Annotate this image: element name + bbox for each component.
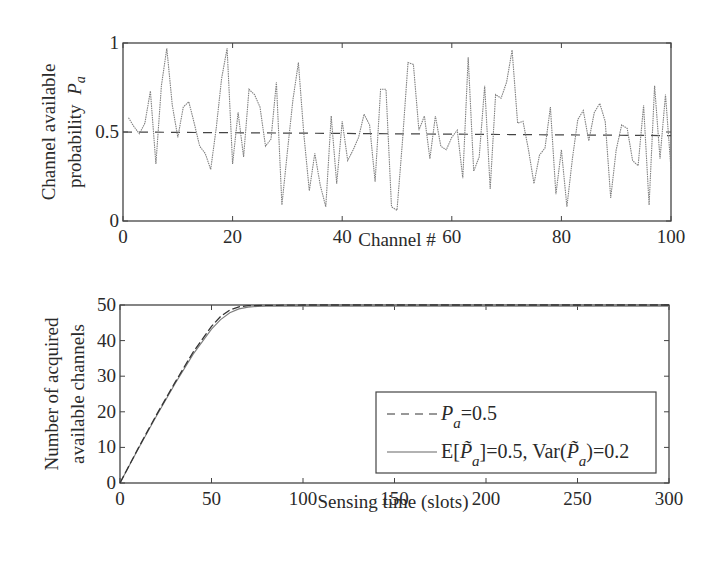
y-tick-label: 10 [97,436,116,457]
bottom-y-axis-label: Number of acquired available channels [41,317,88,470]
legend: Pa=0.5 E[P̃a]=0.5, Var(P̃a)=0.2 [376,392,656,473]
svg-text:Number of acquired: Number of acquired [41,317,62,470]
svg-text:Channel available: Channel available [38,64,59,201]
x-tick-label: 250 [563,488,592,509]
mean-dashed-line [123,132,671,136]
y-tick-label: 0 [107,472,117,493]
channel-probability-line [129,48,672,210]
y-tick-label: 0 [110,210,120,231]
svg-text:probability Pa: probability Pa [64,76,88,188]
bottom-y-tick-labels: 01020304050 [97,294,116,493]
bottom-x-axis-label: Sensing time (slots) [318,491,469,513]
x-tick-label: 80 [552,226,571,247]
y-tick-label: 0.5 [95,121,119,142]
y-tick-label: 50 [97,294,116,315]
x-tick-label: 200 [472,488,501,509]
top-chart: 020406080100 00.51 Channel # Channel ava… [38,32,685,250]
bottom-chart: 050100150200250300 01020304050 Sensing t… [41,294,683,513]
svg-text:available channels: available channels [67,324,88,464]
y-tick-label: 40 [97,330,116,351]
x-tick-label: 0 [115,488,125,509]
x-tick-label: 50 [202,488,221,509]
x-tick-label: 300 [655,488,684,509]
x-tick-label: 100 [289,488,318,509]
figure: 020406080100 00.51 Channel # Channel ava… [0,0,718,573]
x-tick-label: 0 [118,226,128,247]
x-tick-label: 40 [333,226,352,247]
x-tick-label: 20 [223,226,242,247]
y-tick-label: 30 [97,365,116,386]
top-x-axis-label: Channel # [358,229,436,250]
y-tick-label: 1 [110,32,120,53]
top-y-tick-labels: 00.51 [95,32,119,231]
top-y-axis-label: Channel available probability Pa [38,64,88,201]
x-tick-label: 100 [657,226,686,247]
y-tick-label: 20 [97,401,116,422]
x-tick-label: 60 [442,226,461,247]
